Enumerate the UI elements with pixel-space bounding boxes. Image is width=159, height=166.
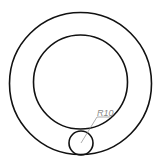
drawing-canvas: R10 — [0, 0, 159, 166]
radius-dimension-label: R10 — [97, 108, 114, 118]
outer-circle — [10, 13, 152, 155]
dimension-leader-line — [81, 117, 97, 143]
